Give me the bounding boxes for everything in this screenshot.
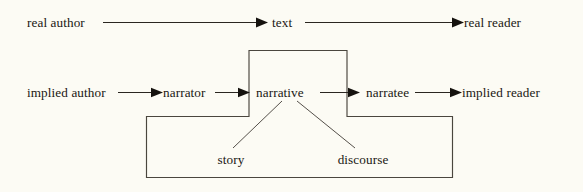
node-real-reader: real reader [464,15,522,30]
node-narrative: narrative [256,85,304,100]
node-story: story [218,152,245,167]
node-implied-author: implied author [27,85,106,100]
arrow-head-to-text [256,18,268,28]
node-narrator: narrator [163,85,206,100]
arrow-head-to-implied-reader [450,88,462,97]
node-implied-reader: implied reader [462,85,540,100]
leader-line-narrative-to-story [233,101,282,148]
node-discourse: discourse [338,152,389,167]
node-narratee: narratee [366,85,409,100]
narrative-enclosure-outline [147,51,453,178]
node-text: text [272,15,292,30]
arrow-head-to-real-reader [452,18,464,28]
arrow-head-to-narratee [348,88,360,97]
node-real-author: real author [27,15,85,30]
leader-line-narrative-to-discourse [297,101,355,148]
arrow-head-to-narrator [151,88,163,97]
diagram-canvas: real author text real reader implied aut… [0,0,583,192]
arrow-head-to-narrative [238,88,250,97]
narrative-communication-diagram: real author text real reader implied aut… [0,0,583,192]
